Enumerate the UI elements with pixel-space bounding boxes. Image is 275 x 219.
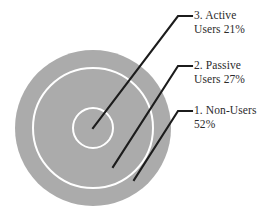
concentric-ring-chart: 3. Active Users 21% 2. Passive Users 27%… <box>0 0 275 219</box>
callout-label-non-users: 1. Non-Users 52% <box>194 103 275 131</box>
callout-label-active-users: 3. Active Users 21% <box>194 8 274 36</box>
callout-label-passive-users: 2. Passive Users 27% <box>194 58 274 86</box>
